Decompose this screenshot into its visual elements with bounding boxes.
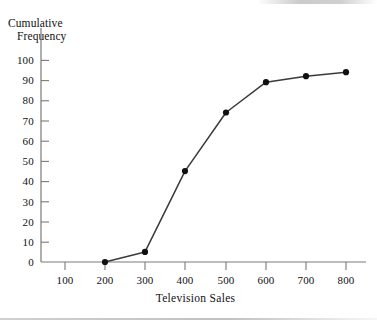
y-tick-label-40: 40 — [4, 175, 34, 187]
y-tick-label-50: 50 — [4, 155, 34, 167]
x-tick-label-400: 400 — [165, 274, 205, 286]
data-point — [142, 249, 148, 255]
x-tick-label-200: 200 — [85, 274, 125, 286]
cumulative-frequency-chart: Cumulative Frequency — [0, 0, 377, 324]
y-tick-label-100: 100 — [4, 54, 34, 66]
x-tick-label-700: 700 — [286, 274, 326, 286]
data-point — [303, 73, 309, 79]
x-axis-title-text: Television Sales — [142, 292, 236, 304]
y-tick-label-90: 90 — [4, 74, 34, 86]
x-tick-label-800: 800 — [326, 274, 366, 286]
x-tick-label-600: 600 — [246, 274, 286, 286]
y-tick-label-60: 60 — [4, 135, 34, 147]
x-tick-label-100: 100 — [45, 274, 85, 286]
y-tick-label-10: 10 — [4, 236, 34, 248]
y-tick-label-20: 20 — [4, 216, 34, 228]
data-point — [343, 69, 349, 75]
data-point — [263, 79, 269, 85]
y-tick-label-80: 80 — [4, 94, 34, 106]
data-point — [223, 109, 229, 115]
x-tick-label-500: 500 — [206, 274, 246, 286]
data-point — [102, 259, 108, 265]
y-tick-label-0: 0 — [4, 256, 34, 268]
y-axis-ticks — [41, 60, 49, 242]
x-axis-title: Television Sales — [0, 292, 377, 304]
y-tick-label-30: 30 — [4, 196, 34, 208]
data-points — [102, 69, 349, 265]
y-tick-label-70: 70 — [4, 115, 34, 127]
x-tick-label-300: 300 — [125, 274, 165, 286]
data-point — [182, 168, 188, 174]
data-line — [105, 72, 346, 262]
